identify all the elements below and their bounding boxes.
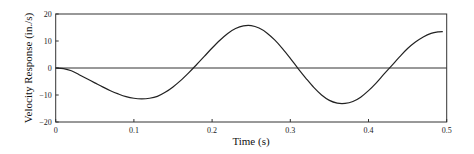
y-tick-label: −10 — [39, 91, 52, 100]
x-tick-label: 0.4 — [364, 126, 374, 135]
y-tick-label: 20 — [44, 10, 52, 19]
x-tick-label: 0.3 — [285, 126, 295, 135]
x-tick-label: 0 — [54, 126, 58, 135]
x-tick-label: 0.5 — [442, 126, 452, 135]
y-tick-label: 10 — [44, 37, 52, 46]
velocity-curve — [56, 25, 443, 103]
x-tick-label: 0.2 — [207, 126, 217, 135]
x-axis-label: Time (s) — [232, 135, 270, 148]
y-axis-label: Velocity Response (in./s) — [22, 13, 35, 124]
x-axis-ticks: 00.10.20.30.40.5 — [54, 119, 452, 135]
y-tick-label: 0 — [48, 64, 52, 73]
x-tick-label: 0.1 — [129, 126, 139, 135]
velocity-response-chart: −20−1001020 00.10.20.30.40.5 Time (s) Ve… — [0, 0, 474, 154]
y-tick-label: −20 — [39, 118, 52, 127]
